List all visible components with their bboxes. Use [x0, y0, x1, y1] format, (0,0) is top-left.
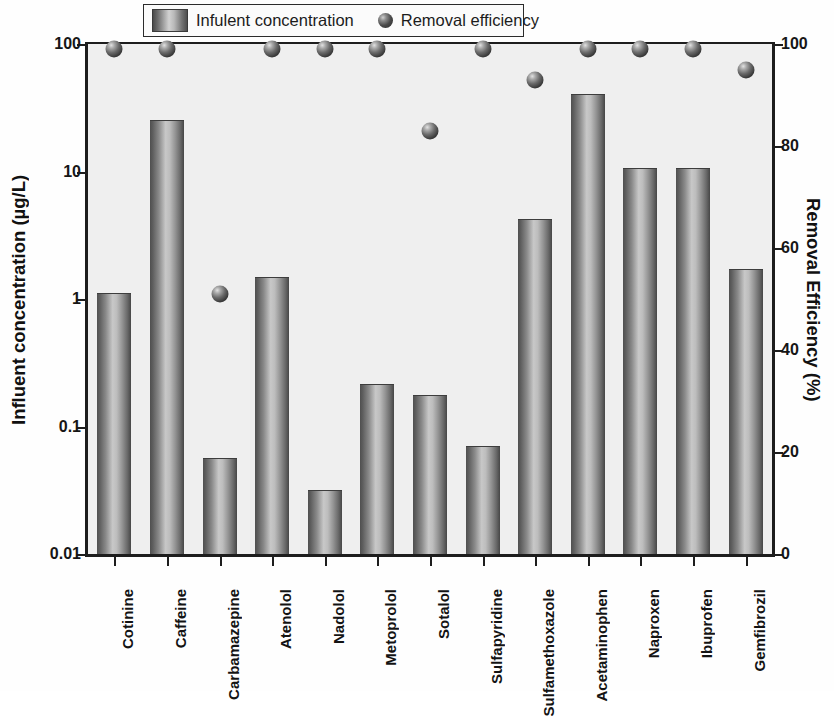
marker-sulfamethoxazole	[527, 71, 544, 88]
plot-area: CotinineCaffeineCarbamazepineAtenololNad…	[88, 44, 772, 554]
x-axis-label-naproxen: Naproxen	[645, 589, 662, 658]
y-tick-label-right-60: 60	[781, 239, 799, 257]
y-tick-label-right-100: 100	[781, 35, 808, 53]
bar-sulfamethoxazole	[518, 219, 552, 554]
x-tick	[535, 554, 537, 566]
bar-atenolol	[255, 277, 289, 554]
bar-sotalol	[413, 395, 447, 554]
x-tick	[430, 554, 432, 566]
x-axis-label-sotalol: Sotalol	[435, 589, 452, 639]
marker-sotalol	[422, 122, 439, 139]
marker-sulfapyridine	[474, 41, 491, 58]
x-tick	[325, 554, 327, 566]
x-axis-label-acetaminophen: Acetaminophen	[593, 589, 610, 702]
x-axis-label-sulfapyridine: Sulfapyridine	[488, 589, 505, 684]
x-tick	[640, 554, 642, 566]
sphere-dot-icon	[378, 13, 393, 28]
x-axis-label-nadolol: Nadolol	[330, 589, 347, 644]
bar-nadolol	[308, 490, 342, 554]
marker-nadolol	[316, 41, 333, 58]
bar-ibuprofen	[676, 168, 710, 554]
marker-carbamazepine	[211, 285, 228, 302]
x-axis-label-cotinine: Cotinine	[119, 589, 136, 649]
marker-metoprolol	[369, 41, 386, 58]
legend-item-influent: Infulent concentration	[152, 9, 354, 32]
marker-gemfibrozil	[737, 61, 754, 78]
y-tick-label-left-1: 1	[72, 290, 81, 308]
marker-naproxen	[632, 41, 649, 58]
plot-frame: CotinineCaffeineCarbamazepineAtenololNad…	[85, 42, 775, 557]
x-tick	[377, 554, 379, 566]
x-tick	[272, 554, 274, 566]
y-axis-right-title: Removal Efficiency (%)	[800, 42, 826, 557]
legend-label-removal: Removal efficiency	[401, 11, 539, 30]
y-tick-label-right-20: 20	[781, 443, 799, 461]
marker-caffeine	[158, 41, 175, 58]
bar-sulfapyridine	[466, 446, 500, 554]
bar-naproxen	[623, 168, 657, 554]
legend-label-influent: Infulent concentration	[196, 11, 354, 30]
x-axis-label-ibuprofen: Ibuprofen	[698, 589, 715, 658]
y-tick-label-right-40: 40	[781, 341, 799, 359]
x-axis-label-carbamazepine: Carbamazepine	[225, 589, 242, 700]
marker-acetaminophen	[579, 41, 596, 58]
x-axis-label-caffeine: Caffeine	[172, 589, 189, 648]
marker-cotinine	[106, 41, 123, 58]
marker-atenolol	[264, 41, 281, 58]
x-tick	[220, 554, 222, 566]
y-tick-label-left-0.01: 0.01	[50, 545, 81, 563]
x-tick	[483, 554, 485, 566]
x-tick	[746, 554, 748, 566]
bar-gemfibrozil	[729, 269, 763, 554]
bar-acetaminophen	[571, 94, 605, 554]
x-axis-label-atenolol: Atenolol	[277, 589, 294, 649]
y-tick-label-right-0: 0	[781, 545, 790, 563]
y-tick-label-left-100: 100	[54, 35, 81, 53]
x-axis-label-gemfibrozil: Gemfibrozil	[751, 589, 768, 672]
y-tick-label-right-80: 80	[781, 137, 799, 155]
x-tick	[693, 554, 695, 566]
chart-legend: Infulent concentration Removal efficienc…	[143, 4, 524, 37]
legend-item-removal: Removal efficiency	[378, 11, 539, 30]
y-axis-left-title: Influent concentration (µg/L)	[6, 42, 32, 557]
bar-cotinine	[97, 293, 131, 554]
y-tick-label-left-10: 10	[63, 163, 81, 181]
bar-metoprolol	[360, 384, 394, 554]
bar-carbamazepine	[203, 458, 237, 554]
x-tick	[167, 554, 169, 566]
y-tick-label-left-0.1: 0.1	[59, 418, 81, 436]
marker-ibuprofen	[685, 41, 702, 58]
bar-caffeine	[150, 120, 184, 554]
x-axis-label-metoprolol: Metoprolol	[382, 589, 399, 666]
x-tick	[588, 554, 590, 566]
x-tick	[114, 554, 116, 566]
bar-swatch-icon	[152, 9, 188, 32]
x-axis-label-sulfamethoxazole: Sulfamethoxazole	[540, 589, 557, 717]
